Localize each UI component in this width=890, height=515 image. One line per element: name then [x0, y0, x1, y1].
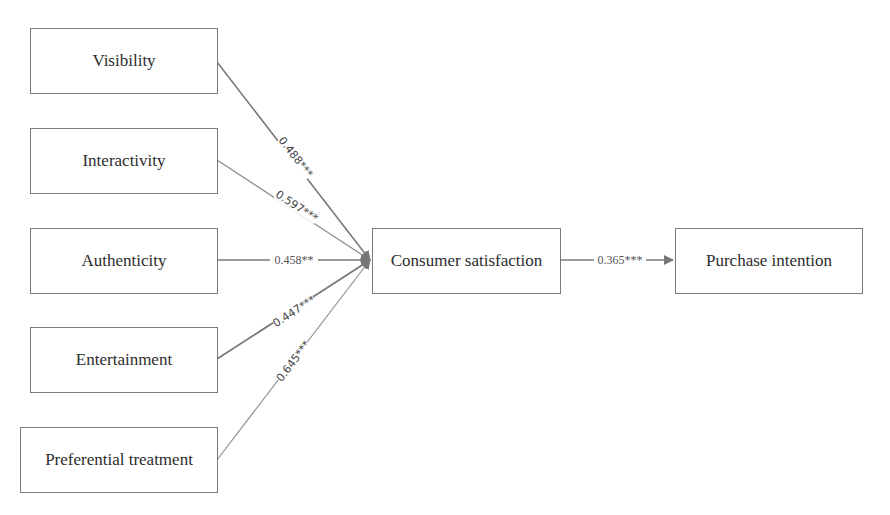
node-visibility: Visibility: [30, 28, 218, 94]
node-preferential-treatment: Preferential treatment: [20, 427, 218, 493]
svg-text:0.645***: 0.645***: [274, 338, 314, 385]
node-consumer-satisfaction: Consumer satisfaction: [372, 228, 561, 294]
svg-text:0.365***: 0.365***: [598, 253, 643, 267]
node-purchase-intention: Purchase intention: [675, 228, 863, 294]
svg-text:0.488***: 0.488***: [276, 134, 316, 180]
svg-text:0.447***: 0.447***: [271, 293, 319, 330]
coef-entertainment: 0.447***: [270, 291, 319, 330]
coef-visibility: 0.488***: [276, 133, 318, 180]
coef-authenticity: 0.458**: [270, 252, 318, 267]
node-entertainment: Entertainment: [30, 327, 218, 393]
svg-text:0.458**: 0.458**: [275, 253, 314, 267]
svg-text:0.597***: 0.597***: [273, 188, 321, 225]
node-interactivity: Interactivity: [30, 128, 218, 194]
node-authenticity: Authenticity: [30, 228, 218, 294]
coef-interactivity: 0.597***: [273, 186, 322, 225]
coef-preferential: 0.645***: [272, 337, 313, 385]
coef-satisfaction-purchase: 0.365***: [594, 252, 646, 267]
